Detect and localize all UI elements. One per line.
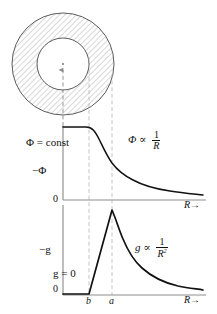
field-fraction-denominator: R2 [156,248,167,260]
field-proportional-label: g ∝ 1 R2 [135,237,168,260]
potential-zero-label: 0 [53,193,58,204]
field-zero-region-label: g = 0 [53,267,76,279]
field-zero-label: 0 [53,283,58,294]
potential-x-axis-label: R→ [184,199,200,210]
field-x-axis-label: R→ [184,294,200,305]
potential-const-label: Φ = const [26,136,69,148]
potential-y-axis-label: −Φ [32,164,46,176]
potential-fraction-denominator: R [152,141,160,151]
potential-proportional-label: Φ ∝ 1 R [128,130,160,151]
field-proportional-lhs: g ∝ [135,241,151,253]
potential-x-axis-arrow-icon: → [190,199,200,210]
tick-label-a: a [109,295,114,306]
figure-canvas [0,0,217,314]
field-fraction: 1 R2 [156,237,167,260]
field-x-axis-arrow-icon: → [190,294,200,305]
potential-proportional-lhs: Φ ∝ [128,133,147,145]
tick-label-b: b [86,295,91,306]
field-y-axis-label: −g [39,243,51,255]
potential-fraction: 1 R [152,130,160,151]
field-fraction-denominator-exponent: 2 [164,247,167,254]
center-dot [62,63,64,65]
